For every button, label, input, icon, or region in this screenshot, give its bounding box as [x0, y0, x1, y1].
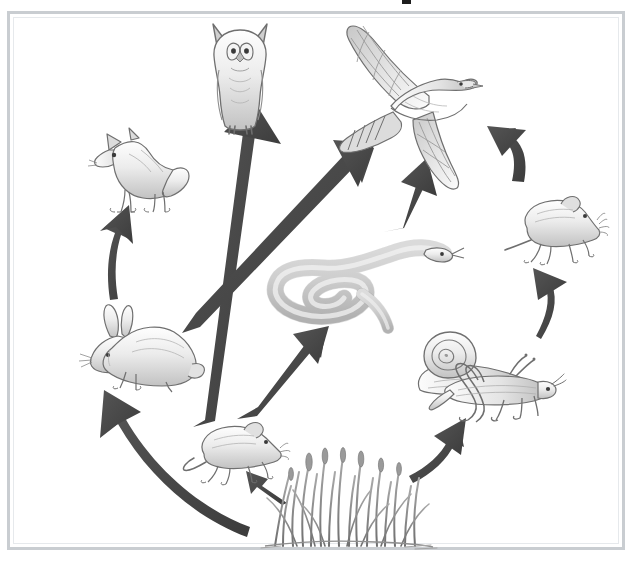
mouse-icon: [183, 423, 290, 485]
rabbit-icon: [79, 305, 204, 392]
fox-icon: [88, 128, 189, 212]
mouse-icon: [505, 197, 609, 265]
snake-icon: [275, 248, 464, 328]
arrow-snail-to-mouseR: [533, 268, 567, 339]
arrow-mouse-to-snake: [237, 326, 329, 419]
arrow-mouse-to-owl: [193, 102, 281, 427]
grass-icon: [261, 448, 437, 550]
arrow-grass-to-grasshopper: [409, 418, 466, 483]
arrow-snake-to-hawk: [383, 158, 437, 232]
arrow-mouseR-to-hawk: [487, 126, 526, 182]
food-web-figure: .: [0, 0, 633, 564]
owl-icon: [213, 24, 267, 134]
arrow-grass-to-mouse: [246, 471, 287, 505]
diagram-canvas: [0, 0, 633, 564]
arrow-rabbit-to-fox: [100, 205, 133, 300]
